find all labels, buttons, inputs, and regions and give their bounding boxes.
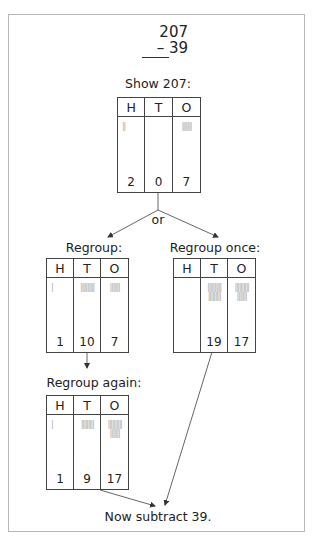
- tally-t: |||||||||| |||||||||: [201, 283, 227, 301]
- value-o: 17: [101, 472, 128, 486]
- tally-o: |||||||: [101, 283, 128, 292]
- tally-h: |: [51, 420, 73, 429]
- label-final: Now subtract 39.: [105, 509, 212, 524]
- place-value-table-regroup: H T O |1 ||||||||||10 |||||||7: [46, 258, 129, 353]
- place-value-table-regroup-once: H T O |||||||||| |||||||||19 |||||||||| …: [173, 258, 256, 353]
- tally-h: |: [51, 283, 73, 292]
- label-regroup-once: Regroup once:: [170, 240, 260, 255]
- tally-t: |||||||||: [74, 420, 100, 429]
- value-t: 19: [201, 335, 227, 349]
- header-t: T: [201, 259, 228, 278]
- value-t: 10: [74, 335, 100, 349]
- label-regroup-again: Regroup again:: [47, 375, 142, 390]
- value-t: 9: [74, 472, 100, 486]
- value-h: 1: [47, 335, 73, 349]
- header-t: T: [74, 396, 101, 415]
- header-o: O: [228, 259, 255, 278]
- header-h: H: [47, 396, 74, 415]
- header-o: O: [101, 396, 128, 415]
- label-regroup: Regroup:: [66, 240, 122, 255]
- tally-o: |||||||||| |||||||: [101, 420, 128, 438]
- tally-t: ||||||||||: [74, 283, 100, 292]
- value-o: 17: [228, 335, 255, 349]
- header-h: H: [174, 259, 201, 278]
- tally-o: |||||||||| |||||||: [228, 283, 255, 301]
- header-t: T: [74, 259, 101, 278]
- place-value-table-regroup-again: H T O |1 |||||||||9 |||||||||| |||||||17: [46, 395, 129, 490]
- header-o: O: [101, 259, 128, 278]
- value-h: 1: [47, 472, 73, 486]
- header-h: H: [47, 259, 74, 278]
- value-o: 7: [101, 335, 128, 349]
